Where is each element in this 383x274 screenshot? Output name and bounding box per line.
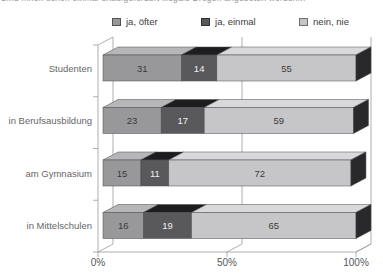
bar-value-label: 55	[281, 63, 292, 74]
bar-value-label: 17	[177, 115, 188, 126]
bar-value-label: 19	[162, 220, 173, 231]
category-label: in Berufsausbildung	[9, 115, 92, 126]
bar-value-label: 72	[255, 168, 266, 179]
bar-value-label: 16	[118, 220, 129, 231]
x-tick-label: 50%	[217, 257, 237, 268]
bar-segment-top	[217, 47, 371, 55]
category-label: am Gymnasium	[25, 168, 92, 179]
bar-value-label: 65	[268, 220, 279, 231]
bar-value-label: 59	[274, 115, 285, 126]
chart-root: Sind Ihnen schon einmal unaufgefordert i…	[0, 0, 383, 274]
category-label: in Mittelschulen	[27, 220, 92, 231]
x-tick-label: 0%	[91, 257, 106, 268]
bar-value-label: 11	[150, 168, 160, 179]
plot-area: 0%50%100%311455Studenten231759in Berufsa…	[0, 0, 383, 274]
bar-value-label: 23	[127, 115, 138, 126]
bar-value-label: 31	[137, 63, 148, 74]
bar-segment-top	[204, 100, 368, 108]
category-label: Studenten	[49, 63, 92, 74]
bar-segment-top	[192, 205, 371, 213]
bar-segment-top	[103, 47, 196, 55]
bar-value-label: 14	[194, 63, 205, 74]
bar-value-label: 15	[117, 168, 128, 179]
bar-segment-top	[169, 152, 366, 160]
gridline-foot	[356, 244, 371, 252]
gridline-foot	[227, 244, 242, 252]
x-tick-label: 100%	[343, 257, 369, 268]
